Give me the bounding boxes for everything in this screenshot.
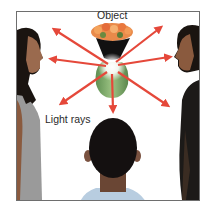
observer-center-back bbox=[80, 118, 146, 202]
object-label: Object bbox=[97, 9, 127, 21]
light-rays-label: Light rays bbox=[45, 113, 91, 125]
observer-right bbox=[174, 25, 199, 200]
observer-left bbox=[17, 28, 43, 200]
ray-right bbox=[118, 57, 169, 65]
light-rays-diagram bbox=[0, 0, 211, 215]
ray-left bbox=[52, 59, 106, 66]
ray-down bbox=[112, 74, 113, 110]
